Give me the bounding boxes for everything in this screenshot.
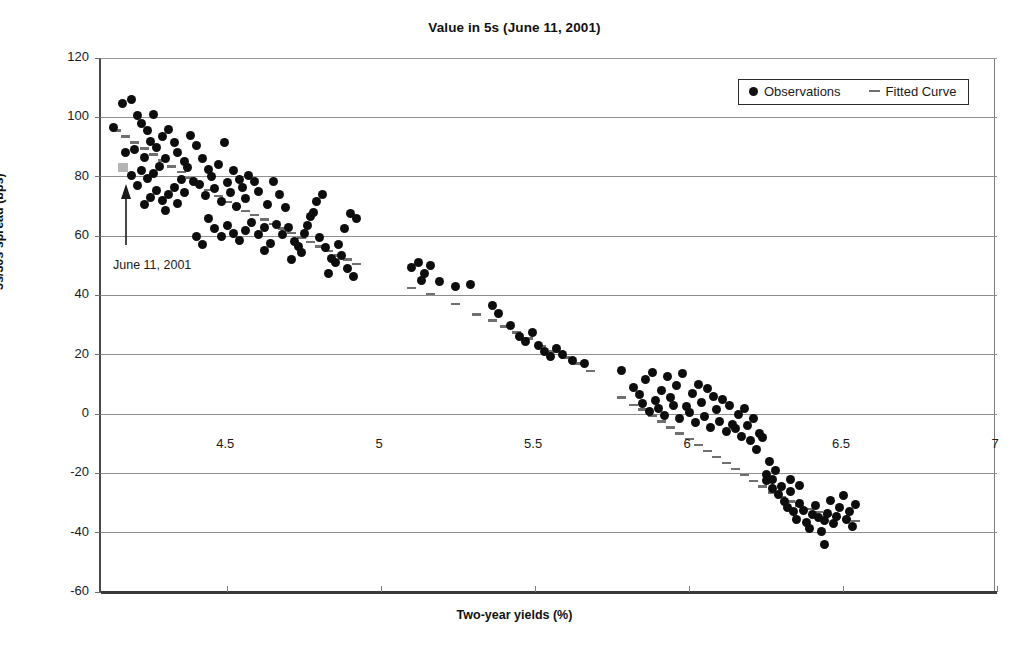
observation-point <box>758 433 767 442</box>
fitted-curve-segment <box>617 396 626 399</box>
observation-point <box>697 398 706 407</box>
observation-point <box>140 153 149 162</box>
observation-point <box>506 321 515 330</box>
observation-point <box>263 200 272 209</box>
observation-point <box>795 481 804 490</box>
observation-point <box>254 187 263 196</box>
observation-point <box>133 181 142 190</box>
observation-point <box>254 230 263 239</box>
observation-point <box>140 200 149 209</box>
y-tick-label: 80 <box>31 168 89 183</box>
observation-point <box>217 232 226 241</box>
observation-point <box>451 282 460 291</box>
y-tick-mark <box>95 414 101 415</box>
observation-point <box>768 484 777 493</box>
plot-area <box>101 58 994 592</box>
x-tick-label: 7 <box>991 436 998 451</box>
legend-dash-icon <box>869 90 880 92</box>
observation-point <box>164 125 173 134</box>
x-tick-mark <box>535 586 536 592</box>
fitted-curve-segment <box>675 432 684 435</box>
y-tick-label: -20 <box>31 464 89 479</box>
y-tick-mark <box>95 236 101 237</box>
observation-point <box>250 177 259 186</box>
observation-point <box>722 427 731 436</box>
fitted-curve-segment <box>287 232 296 235</box>
observation-point <box>617 366 626 375</box>
observation-point <box>143 174 152 183</box>
observation-point <box>715 417 724 426</box>
fitted-curve-segment <box>472 313 481 316</box>
observation-point <box>121 148 130 157</box>
fitted-curve-segment <box>488 319 497 322</box>
observation-point <box>238 183 247 192</box>
annotation-label: June 11, 2001 <box>113 258 191 272</box>
observation-point <box>220 138 229 147</box>
observation-point <box>287 255 296 264</box>
observation-point <box>820 540 829 549</box>
observation-point <box>331 258 340 267</box>
observation-point <box>303 221 312 230</box>
observation-point <box>580 359 589 368</box>
fitted-curve-segment <box>167 165 176 168</box>
observation-point <box>546 352 555 361</box>
observation-point <box>752 445 761 454</box>
observation-point <box>737 432 746 441</box>
observation-point <box>118 99 127 108</box>
legend-dot-icon <box>749 87 758 96</box>
observation-point <box>823 509 832 518</box>
observation-point <box>315 233 324 242</box>
observation-point <box>232 202 241 211</box>
observation-point <box>709 392 718 401</box>
legend-item-observations: Observations <box>749 84 841 99</box>
observation-point <box>229 166 238 175</box>
y-tick-mark <box>95 354 101 355</box>
observation-point <box>792 515 801 524</box>
observation-point <box>426 261 435 270</box>
observation-point <box>743 421 752 430</box>
observation-point <box>294 242 303 251</box>
observation-point <box>845 507 854 516</box>
x-tick-label: 4.5 <box>216 436 234 451</box>
observation-point <box>848 522 857 531</box>
fitted-curve-segment <box>694 444 703 447</box>
observation-point <box>269 177 278 186</box>
observation-point <box>521 337 530 346</box>
observation-point <box>648 368 657 377</box>
fitted-curve-segment <box>306 241 315 244</box>
observation-point <box>260 246 269 255</box>
gridline <box>101 414 997 415</box>
x-tick-label: 6 <box>683 436 690 451</box>
observation-point <box>528 328 537 337</box>
observation-point <box>173 148 182 157</box>
observation-point <box>241 226 250 235</box>
y-tick-label: -40 <box>31 524 89 539</box>
x-tick-mark <box>843 586 844 592</box>
fitted-curve-segment <box>260 218 269 221</box>
observation-point <box>641 375 650 384</box>
observation-point <box>678 369 687 378</box>
y-tick-mark <box>95 592 101 593</box>
highlighted-point-marker <box>118 163 128 172</box>
fitted-curve-segment <box>629 404 638 407</box>
gridline <box>101 532 997 533</box>
fitted-curve-segment <box>758 485 767 488</box>
observation-point <box>272 220 281 229</box>
y-tick-label: 20 <box>31 346 89 361</box>
y-tick-mark <box>95 176 101 177</box>
observation-point <box>210 184 219 193</box>
observation-point <box>740 404 749 413</box>
observation-point <box>435 277 444 286</box>
legend-item-fitted-curve: Fitted Curve <box>869 84 957 99</box>
observation-point <box>284 223 293 232</box>
fitted-curve-segment <box>740 474 749 477</box>
observation-point <box>130 145 139 154</box>
x-tick-label: 6.5 <box>832 436 850 451</box>
plot-frame <box>99 58 995 592</box>
x-tick-mark <box>689 586 690 592</box>
x-tick-label: 5 <box>376 436 383 451</box>
observation-point <box>198 240 207 249</box>
y-tick-mark <box>95 532 101 533</box>
legend-label-observations: Observations <box>764 84 841 99</box>
observation-point <box>663 372 672 381</box>
